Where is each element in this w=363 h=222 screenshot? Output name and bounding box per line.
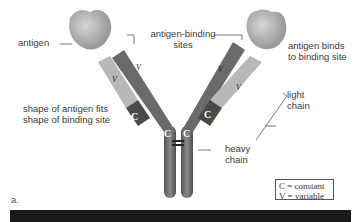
label-binding-sites-1: antigen-binding (147, 29, 219, 40)
label-light-2: chain (287, 101, 310, 112)
antigen-left (69, 10, 111, 50)
svg-text:C: C (183, 128, 190, 139)
antigen-right (246, 9, 286, 49)
svg-text:C: C (204, 109, 211, 120)
label-binding-sites-2: sites (147, 40, 219, 51)
legend-box: C = constant V = variable (275, 179, 334, 200)
label-fits-2: shape of binding site (23, 115, 110, 126)
label-binds-1: antigen binds (288, 41, 345, 52)
label-heavy-1: heavy (225, 144, 250, 155)
label-light-1: light (287, 90, 304, 101)
legend-constant: C = constant (279, 181, 330, 191)
svg-text:C: C (131, 111, 138, 122)
svg-text:V: V (136, 63, 142, 72)
panel-label: a. (11, 194, 19, 205)
label-binds-2: to binding site (288, 52, 347, 63)
bottom-bar (10, 210, 351, 222)
c-letter: C (164, 128, 171, 139)
label-antigen: antigen (18, 38, 49, 49)
label-fits-1: shape of antigen fits (23, 104, 108, 115)
label-heavy-2: chain (225, 155, 248, 166)
legend-variable: V = variable (279, 191, 330, 201)
